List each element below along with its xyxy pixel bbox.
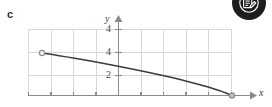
y-tick-label-bottom: 2 [99, 70, 111, 80]
y-axis-arrow [115, 15, 123, 22]
y-tick-label-top: 4 [99, 24, 111, 34]
coordinate-plot [0, 0, 272, 107]
y-tick-label-middle: 4 [99, 47, 111, 57]
figure-container: c [0, 0, 272, 107]
function-curve [42, 53, 232, 96]
x-axis-label: x [259, 88, 263, 98]
x-axis-ticks [29, 92, 232, 95]
curve-end-endpoint [229, 93, 234, 98]
x-axis-arrow [250, 92, 257, 100]
curve-start-endpoint [39, 50, 44, 55]
